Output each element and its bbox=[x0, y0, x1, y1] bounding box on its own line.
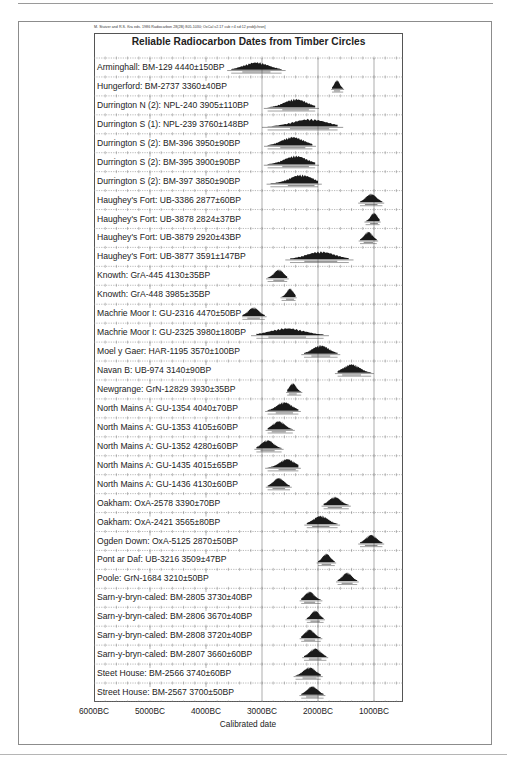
citation-text: M. Stuiver and R.S. Kra eds. 1986 Radioc… bbox=[94, 25, 266, 29]
row-label: Knowth: GrA-445 4130±35BP bbox=[97, 270, 211, 281]
probability-distribution bbox=[268, 478, 290, 487]
probability-distribution bbox=[268, 137, 313, 146]
probability-distribution bbox=[268, 99, 316, 108]
probability-distribution bbox=[270, 174, 318, 183]
row-label: North Mains A: GU-1352 4280±60BP bbox=[97, 441, 239, 452]
row-label: Durrington S (2): BM-396 3950±90BP bbox=[97, 138, 241, 149]
row-label: Oakham: OxA-2421 3565±80BP bbox=[97, 517, 221, 528]
probability-distribution bbox=[268, 156, 316, 165]
probability-distribution bbox=[287, 383, 301, 392]
probability-distribution bbox=[268, 269, 288, 278]
x-tick-label: 1000BC bbox=[359, 706, 389, 716]
x-axis-title: Calibrated date bbox=[220, 719, 276, 729]
probability-distribution bbox=[290, 251, 349, 259]
x-tick-label: 3000BC bbox=[247, 706, 277, 716]
row-label: Sarn-y-bryn-caled: BM-2808 3720±40BP bbox=[97, 630, 253, 641]
row-label: North Mains A: GU-1435 4015±65BP bbox=[97, 460, 239, 471]
row-label: Poole: GrN-1684 3210±50BP bbox=[97, 573, 210, 584]
probability-distribution bbox=[256, 328, 323, 335]
probability-distribution bbox=[366, 212, 380, 221]
probability-distribution bbox=[318, 553, 335, 562]
row-label: North Mains A: GU-1354 4040±70BP bbox=[97, 403, 239, 414]
probability-distribution bbox=[282, 288, 296, 297]
probability-distribution bbox=[231, 62, 281, 70]
probability-distribution bbox=[307, 610, 324, 619]
probability-distribution bbox=[324, 496, 349, 505]
row-label: Haughey's Fort: UB-3877 3591±147BP bbox=[97, 251, 247, 262]
row-label: Sarn-y-bryn-caled: BM-2805 3730±40BP bbox=[97, 592, 253, 603]
probability-distribution bbox=[332, 80, 343, 89]
row-label: Sarn-y-bryn-caled: BM-2806 3670±40BP bbox=[97, 611, 253, 622]
probability-distribution bbox=[360, 193, 382, 202]
row-label: North Mains A: GU-1436 4130±60BP bbox=[97, 479, 239, 490]
row-label: Ogden Down: OxA-5125 2870±50BP bbox=[97, 536, 239, 547]
probability-distribution bbox=[268, 421, 293, 430]
row-label: Arminghall: BM-129 4440±150BP bbox=[97, 62, 226, 73]
probability-distribution bbox=[301, 686, 323, 695]
x-tick-label: 5000BC bbox=[135, 706, 165, 716]
row-label: Knowth: GrA-448 3985±35BP bbox=[97, 289, 211, 300]
probability-distribution bbox=[256, 440, 281, 449]
row-label: Street House: BM-2567 3700±50BP bbox=[97, 687, 235, 698]
row-label: Haughey's Fort: UB-3879 2920±43BP bbox=[97, 232, 242, 243]
row-label: Oakham: OxA-2578 3390±70BP bbox=[97, 498, 221, 509]
probability-distribution bbox=[360, 535, 382, 544]
row-label: Hungerford: BM-2737 3360±40BP bbox=[97, 81, 228, 92]
probability-distribution bbox=[268, 459, 299, 468]
row-label: Steet House: BM-2566 3740±60BP bbox=[97, 668, 232, 679]
probability-distribution bbox=[268, 119, 338, 127]
row-label: Machrie Moor I: GU-2316 4470±50BP bbox=[97, 308, 242, 319]
probability-distribution bbox=[304, 345, 338, 354]
x-tick-label: 6000BC bbox=[79, 706, 109, 716]
probability-distribution bbox=[338, 572, 358, 581]
row-label: Moel y Gaer: HAR-1195 3570±100BP bbox=[97, 346, 241, 357]
row-label: Navan B: UB-974 3140±90BP bbox=[97, 365, 212, 376]
row-label: Pont ar Daf: UB-3216 3509±47BP bbox=[97, 554, 227, 565]
row-label: Haughey's Fort: UB-3878 2824±37BP bbox=[97, 214, 242, 225]
probability-distribution bbox=[304, 648, 326, 657]
row-label: Durrington S (2): BM-395 3900±90BP bbox=[97, 157, 241, 168]
probability-distribution bbox=[242, 307, 264, 316]
page-bottom-rule bbox=[0, 754, 507, 755]
row-label: Durrington S (1): NPL-239 3760±148BP bbox=[97, 119, 250, 130]
row-label: Durrington S (2): BM-397 3850±90BP bbox=[97, 176, 241, 187]
x-tick-label: 2000BC bbox=[303, 706, 333, 716]
page-top-rule bbox=[18, 3, 493, 4]
probability-distribution bbox=[338, 364, 372, 373]
row-label: North Mains A: GU-1353 4105±60BP bbox=[97, 422, 239, 433]
row-label: Newgrange: GrN-12829 3930±35BP bbox=[97, 384, 236, 395]
row-label: Machrie Moor I: GU-2325 3980±180BP bbox=[97, 327, 247, 338]
row-label: Haughey's Fort: UB-3386 2877±60BP bbox=[97, 195, 242, 206]
x-tick-label: 4000BC bbox=[191, 706, 221, 716]
probability-distribution bbox=[296, 667, 321, 676]
probability-distribution bbox=[307, 515, 338, 524]
row-label: Sarn-y-bryn-caled: BM-2807 3660±60BP bbox=[97, 649, 253, 660]
row-label: Durrington N (2): NPL-240 3905±110BP bbox=[97, 100, 250, 111]
probability-distribution bbox=[268, 402, 299, 411]
